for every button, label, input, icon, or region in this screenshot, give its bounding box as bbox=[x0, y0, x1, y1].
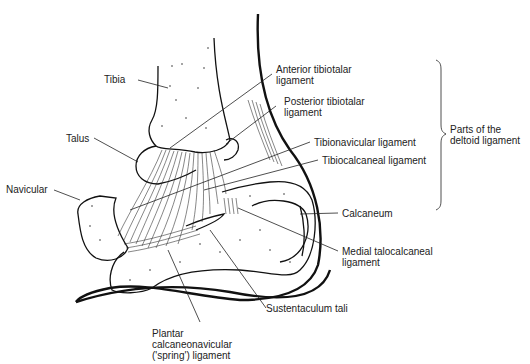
ankle-diagram bbox=[0, 0, 530, 364]
label-sustentaculum-tali: Sustentaculum tali bbox=[266, 303, 348, 314]
leader-tibia bbox=[138, 80, 168, 88]
sustentaculum-shape bbox=[186, 214, 224, 230]
leader-navicular bbox=[54, 190, 80, 200]
leader-posterior-tibiotalar bbox=[226, 106, 276, 144]
talus-bone bbox=[136, 146, 196, 184]
label-calcaneum: Calcaneum bbox=[342, 208, 393, 219]
label-tibia: Tibia bbox=[104, 74, 125, 85]
label-talus: Talus bbox=[66, 133, 89, 144]
calcaneum-inner bbox=[252, 200, 308, 262]
leader-tibiocalcaneal bbox=[204, 160, 318, 190]
skin-outline bbox=[76, 14, 321, 302]
label-tibionavicular: Tibionavicular ligament bbox=[314, 137, 416, 148]
medial-malleolus bbox=[224, 139, 238, 160]
label-medial-talocalcaneal: Medial talocalcaneal ligament bbox=[342, 246, 433, 268]
label-tibiocalcaneal: Tibiocalcaneal ligament bbox=[322, 155, 426, 166]
label-navicular: Navicular bbox=[6, 184, 48, 195]
posterior-fibres bbox=[248, 100, 282, 166]
leader-medial-talocalcaneal bbox=[238, 208, 338, 251]
label-posterior-tibiotalar: Posterior tibiotalar ligament bbox=[284, 96, 365, 118]
deltoid-fibres bbox=[118, 150, 226, 248]
leader-sustentaculum bbox=[210, 230, 266, 308]
leader-anterior-tibiotalar bbox=[170, 74, 272, 148]
leader-tibionavicular bbox=[130, 142, 310, 210]
tibia-bone bbox=[149, 38, 230, 153]
label-deltoid-group: Parts of the deltoid ligament bbox=[450, 124, 520, 146]
leader-talus bbox=[94, 138, 138, 162]
medial-talocalcaneal-fibres bbox=[224, 198, 238, 214]
label-anterior-tibiotalar: Anterior tibiotalar ligament bbox=[276, 64, 352, 86]
calcaneum-bone bbox=[110, 182, 315, 293]
deltoid-brace bbox=[436, 60, 446, 210]
label-spring-ligament: Plantar calcaneonavicular ('spring') lig… bbox=[152, 328, 232, 361]
navicular-bone bbox=[78, 196, 128, 260]
